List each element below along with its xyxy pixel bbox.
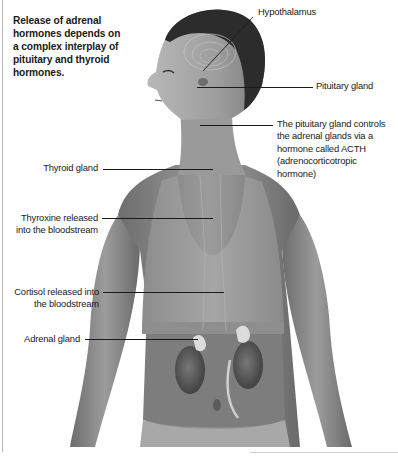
acth-line-3: hormone called ACTH: [277, 143, 398, 155]
thyroxine-leader: [102, 218, 213, 219]
label-thyroxine: Thyroxine released into the bloodstream: [10, 212, 98, 237]
label-cortisol: Cortisol released into the bloodstream: [6, 286, 99, 311]
label-acth: The pituitary gland controls the adrenal…: [277, 118, 398, 180]
acth-leader: [200, 125, 273, 126]
thyroxine-line-2: into the bloodstream: [10, 224, 98, 236]
label-thyroid-gland: Thyroid gland: [30, 162, 98, 174]
label-pituitary-gland: Pituitary gland: [316, 80, 373, 92]
label-hypothalamus: Hypothalamus: [258, 6, 316, 18]
label-adrenal-gland: Adrenal gland: [10, 333, 80, 345]
adrenal-leader: [85, 339, 198, 340]
pituitary-leader: [197, 87, 313, 88]
acth-line-4: (adrenocorticotropic hormone): [277, 155, 398, 180]
acth-line-1: The pituitary gland controls: [277, 118, 398, 130]
cortisol-line-2: the bloodstream: [6, 298, 99, 310]
hypothalamus-leader: [203, 17, 253, 71]
acth-line-2: the adrenal glands via a: [277, 130, 398, 142]
thyroxine-line-1: Thyroxine released: [10, 212, 98, 224]
thyroid-leader: [103, 169, 213, 170]
cortisol-leader: [103, 292, 224, 293]
cortisol-line-1: Cortisol released into: [6, 286, 99, 298]
